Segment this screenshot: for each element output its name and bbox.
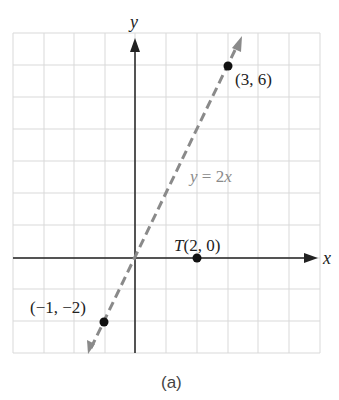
line-arrow-top-icon xyxy=(232,36,242,52)
figure-caption: (a) xyxy=(161,373,182,392)
y-axis-label: y xyxy=(128,12,138,32)
y-axis-arrow-icon xyxy=(130,38,140,52)
point-neg1-neg2-label: (−1, −2) xyxy=(30,298,86,317)
line-y-equals-2x xyxy=(91,48,236,348)
point-3-6 xyxy=(224,62,233,71)
x-axis-arrow-icon xyxy=(304,253,318,263)
line-equation-label: y = 2x xyxy=(188,167,232,186)
point-3-6-label: (3, 6) xyxy=(235,70,272,89)
coordinate-plane: y x (3, 6) T(2, 0) (−1, −2) y = 2x (a) xyxy=(0,0,339,400)
point-neg1-neg2 xyxy=(100,318,109,327)
x-axis-label: x xyxy=(322,248,331,268)
point-t-label: T(2, 0) xyxy=(174,236,220,255)
